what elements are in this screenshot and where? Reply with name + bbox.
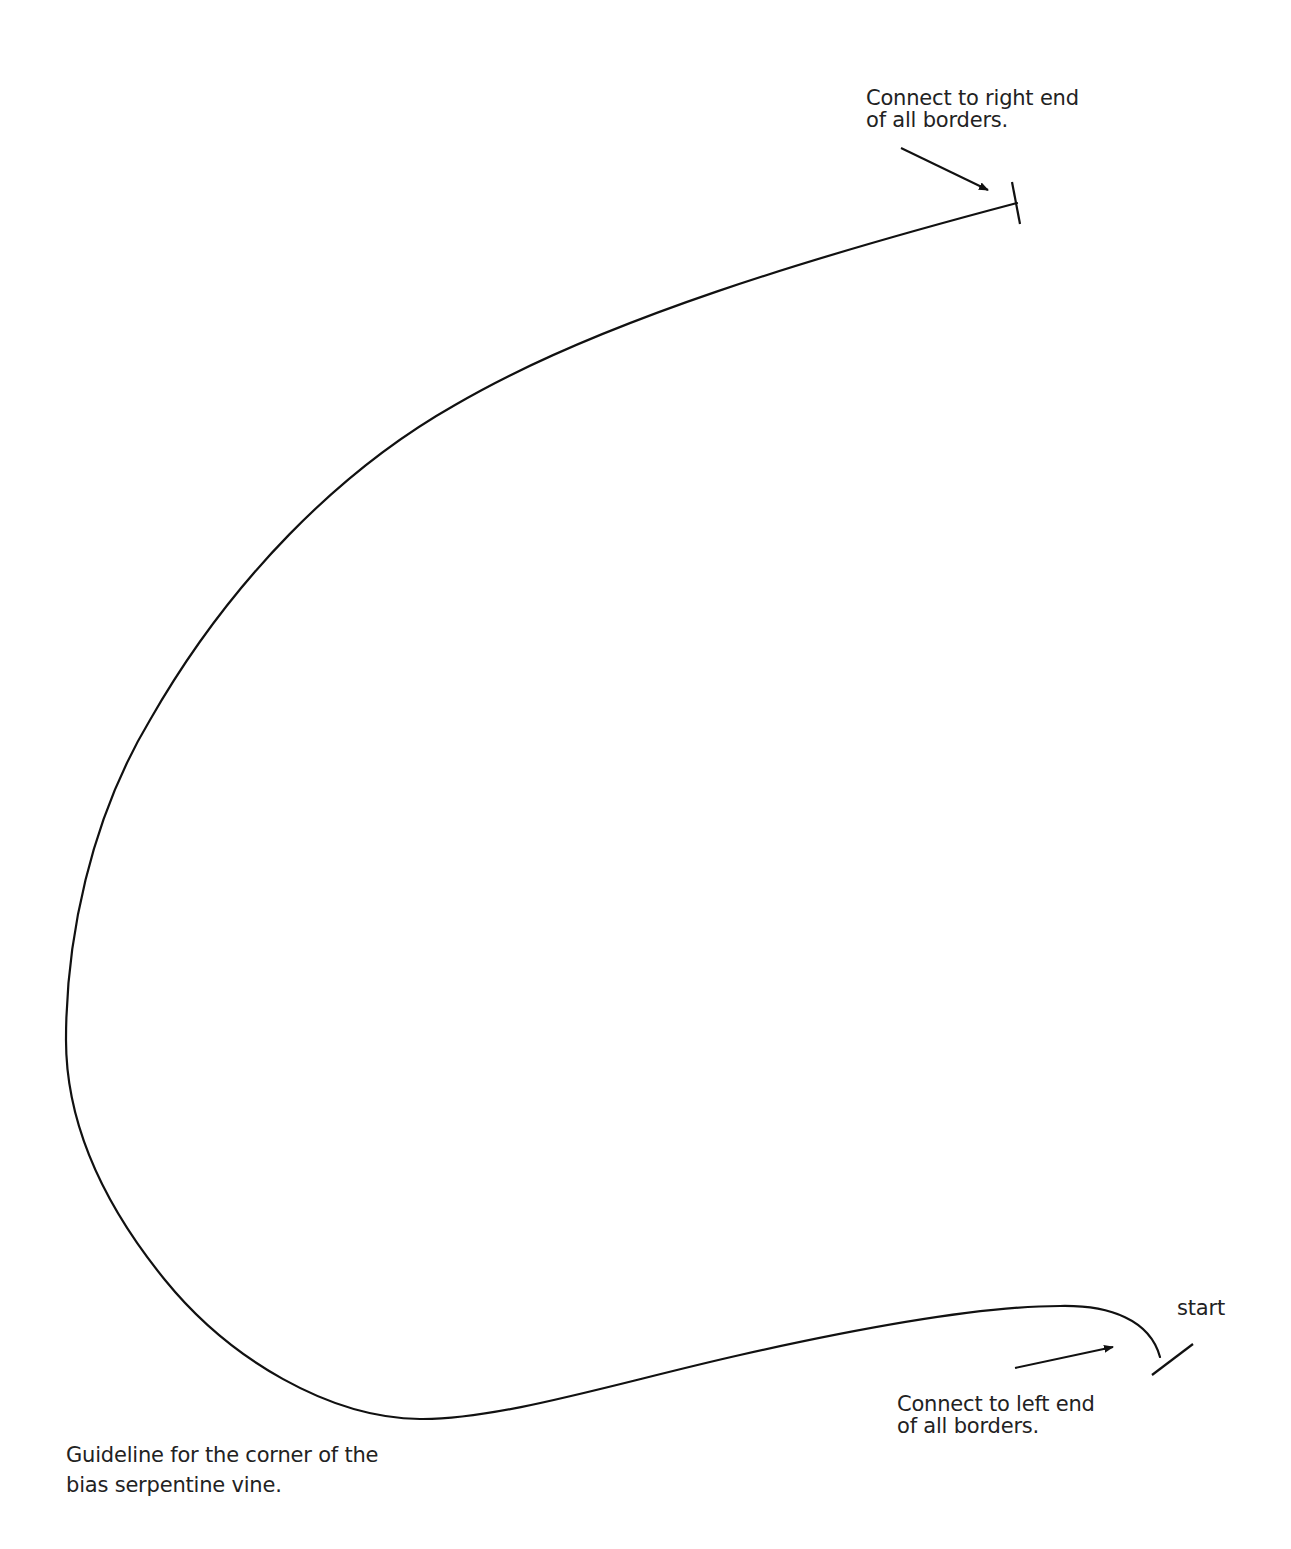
right-end-arrow-icon: [901, 148, 988, 190]
left-end-annotation: Connect to left end of all borders.: [897, 1393, 1095, 1437]
figure-caption-line1: Guideline for the corner of the: [66, 1440, 378, 1470]
figure-caption: Guideline for the corner of the bias ser…: [66, 1440, 378, 1500]
figure-caption-line2: bias serpentine vine.: [66, 1470, 378, 1500]
vine-guideline-curve: [66, 203, 1160, 1419]
left-end-arrow-icon: [1015, 1347, 1113, 1368]
left-end-annotation-line1: Connect to left end: [897, 1393, 1095, 1415]
start-label: start: [1177, 1297, 1225, 1319]
right-end-annotation-line2: of all borders.: [866, 109, 1079, 131]
left-end-annotation-line2: of all borders.: [897, 1415, 1095, 1437]
vine-guideline-diagram: [0, 0, 1291, 1549]
right-end-annotation: Connect to right end of all borders.: [866, 87, 1079, 131]
right-end-annotation-line1: Connect to right end: [866, 87, 1079, 109]
